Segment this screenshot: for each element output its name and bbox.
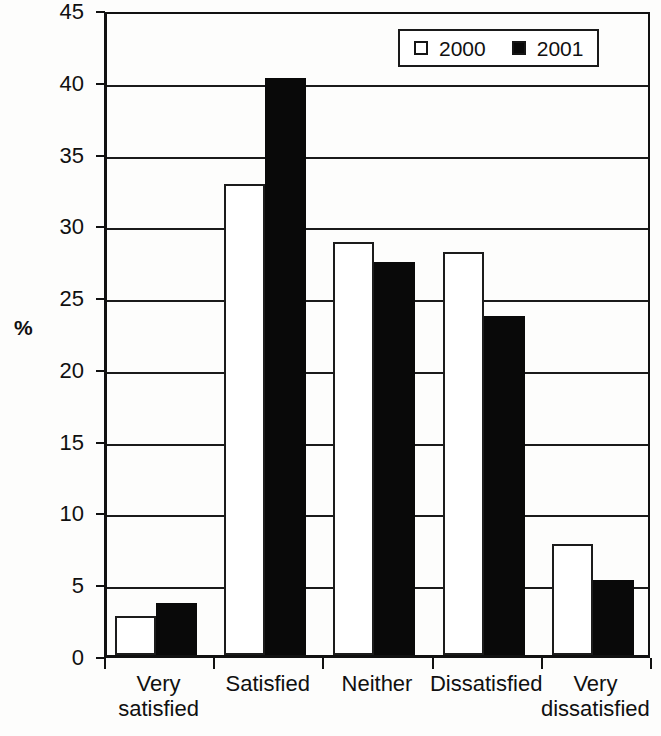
y-axis-tick-labels: 051015202530354045	[0, 0, 84, 736]
x-tick-label-line1: Satisfied	[226, 671, 310, 696]
y-tick-label-15: 15	[10, 432, 84, 454]
bar-2001-very-satisfied	[156, 603, 197, 655]
y-tick-label-0: 0	[10, 647, 84, 669]
chart-legend: 2000 2001	[398, 29, 599, 67]
y-tick-label-20: 20	[10, 360, 84, 382]
bar-2000-neither	[333, 242, 374, 655]
x-tick-label-line2: dissatisfied	[507, 697, 661, 722]
filled-square-swatch-icon	[512, 41, 526, 55]
bar-2000-satisfied	[224, 184, 265, 655]
legend-item-2001: 2001	[512, 38, 584, 59]
bar-2000-dissatisfied	[443, 252, 484, 655]
bar-2000-very-dissatisfied	[552, 544, 593, 655]
legend-label-2000: 2000	[439, 38, 486, 59]
x-tick-mark-0	[104, 658, 106, 669]
bar-2001-satisfied	[265, 78, 306, 655]
bar-2001-very-dissatisfied	[593, 580, 634, 655]
x-tick-label-line1: Very	[137, 671, 181, 696]
y-tick-label-45: 45	[10, 1, 84, 23]
x-tick-label-line2: satisfied	[90, 697, 227, 722]
bar-2001-neither	[374, 262, 415, 655]
bars-layer	[107, 14, 648, 655]
legend-label-2001: 2001	[537, 38, 584, 59]
y-tick-label-40: 40	[10, 73, 84, 95]
x-tick-mark-1	[213, 658, 215, 669]
open-square-swatch-icon	[414, 41, 428, 55]
x-tick-label-line1: Neither	[342, 671, 413, 696]
x-tick-mark-2	[322, 658, 324, 669]
legend-item-2000: 2000	[414, 38, 486, 59]
y-tick-label-5: 5	[10, 575, 84, 597]
y-tick-label-35: 35	[10, 145, 84, 167]
bar-2001-dissatisfied	[484, 316, 525, 655]
y-tick-label-10: 10	[10, 503, 84, 525]
y-tick-label-25: 25	[10, 288, 84, 310]
x-tick-mark-3	[432, 658, 434, 669]
bar-chart: % 051015202530354045 VerysatisfiedSatisf…	[0, 0, 661, 736]
x-tick-label-very-dissatisfied: Verydissatisfied	[507, 672, 661, 722]
plot-area	[104, 12, 650, 658]
x-tick-label-line1: Very	[573, 671, 617, 696]
x-tick-mark-4	[541, 658, 543, 669]
bar-2000-very-satisfied	[115, 616, 156, 655]
x-tick-mark-5	[650, 658, 652, 669]
y-tick-label-30: 30	[10, 216, 84, 238]
